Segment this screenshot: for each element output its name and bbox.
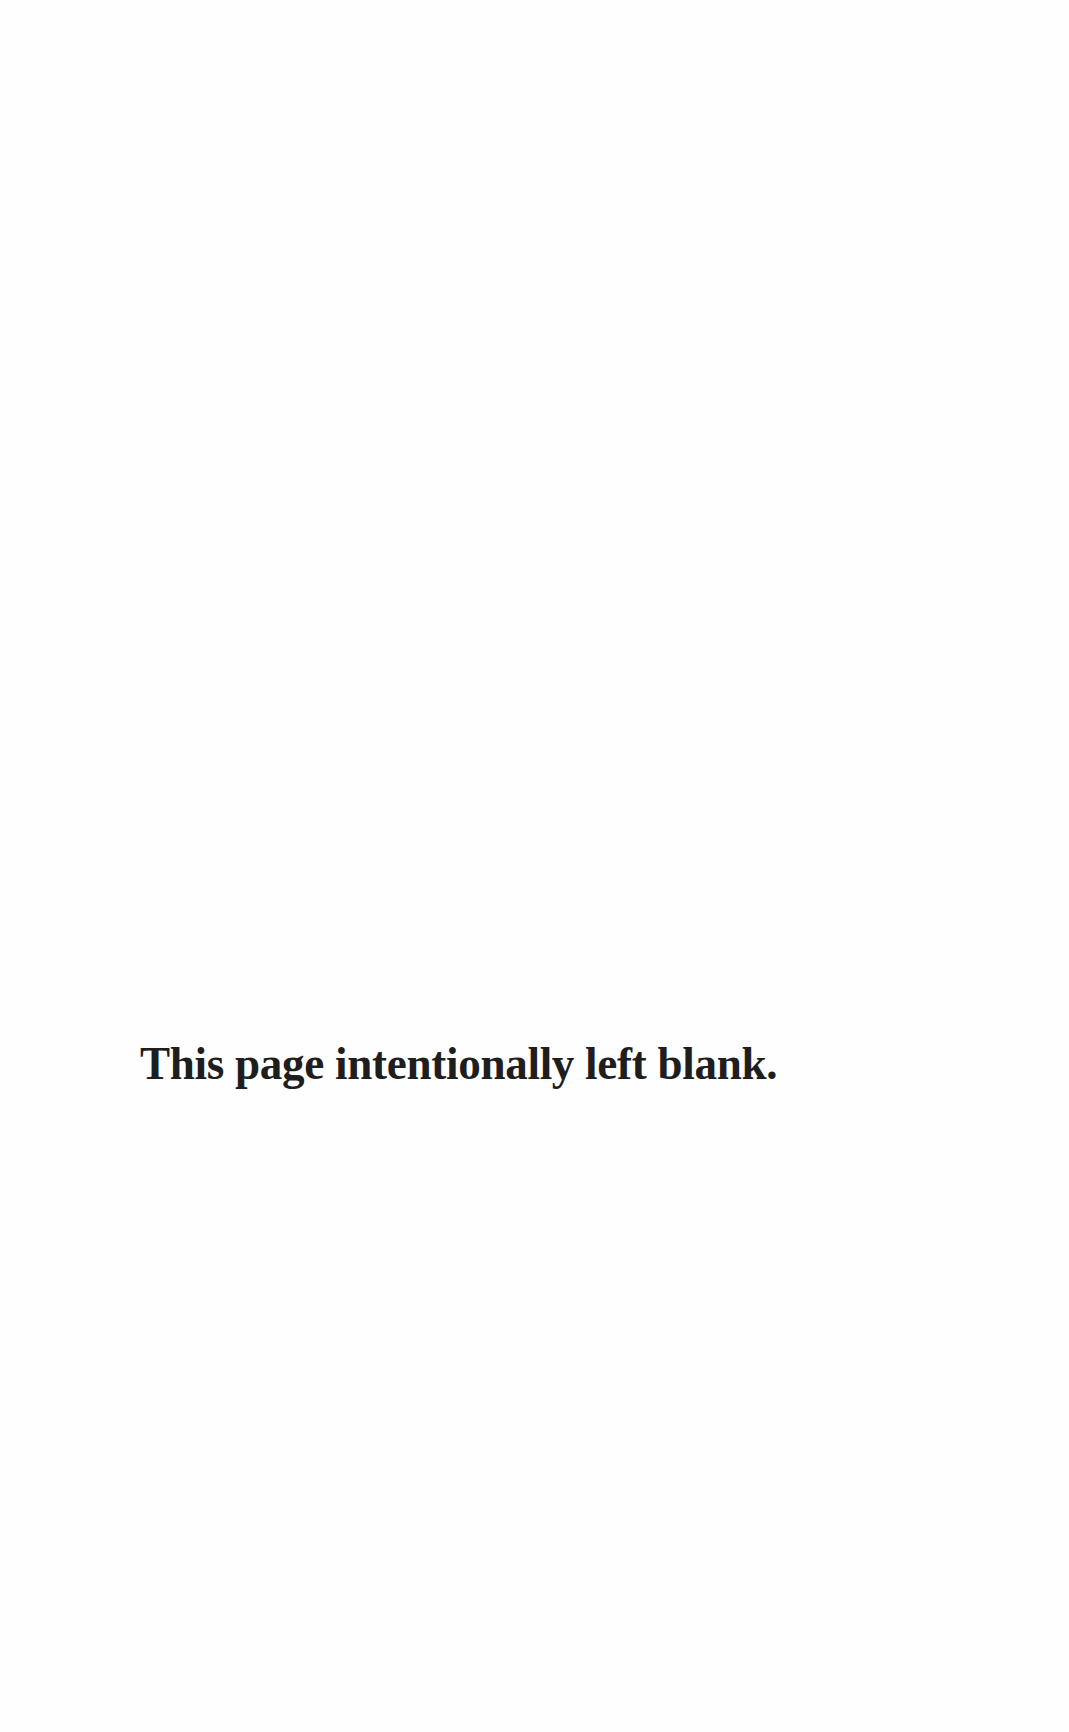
blank-page-notice: This page intentionally left blank. [140, 1036, 777, 1092]
document-page: This page intentionally left blank. [0, 0, 1069, 1732]
